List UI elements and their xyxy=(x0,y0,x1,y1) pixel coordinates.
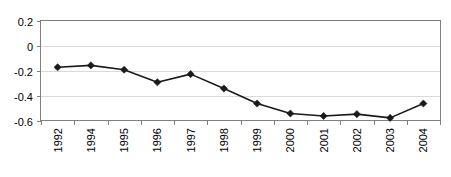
x-tick-label: 2004 xyxy=(417,128,429,152)
x-tick-label: 2002 xyxy=(351,128,363,152)
x-tick-label: 2000 xyxy=(284,128,296,152)
x-tick-label: 1994 xyxy=(85,128,97,152)
x-tick-label: 1998 xyxy=(218,128,230,152)
x-tick-label: 1996 xyxy=(151,128,163,152)
x-tick-label: 1997 xyxy=(185,128,197,152)
x-tick-label: 1992 xyxy=(52,128,64,152)
x-tick-label: 1995 xyxy=(118,128,130,152)
y-tick-label: -0.4 xyxy=(14,91,33,103)
y-tick-label: -0.6 xyxy=(14,116,33,128)
y-tick-label: 0 xyxy=(27,41,33,53)
x-tick-label: 2001 xyxy=(318,128,330,152)
line-chart: 0.20-0.2-0.4-0.6 19921994199519961997199… xyxy=(0,0,451,177)
y-tick-label: 0.2 xyxy=(18,16,33,28)
x-tick-label: 2003 xyxy=(384,128,396,152)
x-tick-label: 1999 xyxy=(251,128,263,152)
y-tick-label: -0.2 xyxy=(14,66,33,78)
chart-canvas: 0.20-0.2-0.4-0.6 19921994199519961997199… xyxy=(0,0,451,177)
